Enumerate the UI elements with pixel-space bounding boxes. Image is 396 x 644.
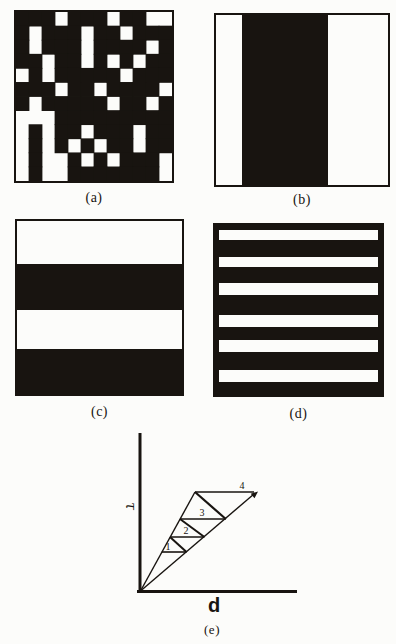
graph-tau-vs-d: 1234τd bbox=[0, 0, 396, 644]
triangle-label-1: 1 bbox=[166, 541, 171, 552]
triangle-label-3: 3 bbox=[200, 507, 205, 518]
triangle-label-2: 2 bbox=[184, 525, 189, 536]
ray-shallow-line bbox=[141, 494, 255, 591]
x-axis-label-d: d bbox=[208, 594, 220, 616]
riser-1-line bbox=[170, 537, 187, 552]
caption-e: (e) bbox=[152, 622, 272, 638]
triangle-label-4: 4 bbox=[240, 480, 245, 491]
y-axis-label-tau: τ bbox=[123, 502, 139, 510]
figure-page: (a) (b) (c) (d) 1234τd (e) bbox=[0, 0, 396, 644]
